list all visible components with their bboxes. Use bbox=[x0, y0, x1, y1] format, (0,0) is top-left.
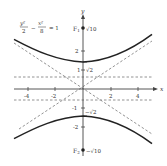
equation-minus: − bbox=[31, 25, 36, 31]
vertex-top-label: √2 bbox=[86, 67, 93, 73]
y-axis-label: y bbox=[80, 7, 85, 15]
focus-f2-label: F2 bbox=[73, 147, 80, 156]
x-tick-label: -2 bbox=[51, 93, 56, 99]
y-axis-arrow-icon bbox=[81, 14, 85, 19]
focus-f1-value: √10 bbox=[86, 26, 97, 32]
equation-num2: x² bbox=[38, 20, 43, 26]
hyperbola-diagram: x y -4 -2 2 4 2 1 -1 -2 √2 −√2 F1 √10 F2… bbox=[0, 0, 167, 166]
x-axis-label: x bbox=[160, 85, 164, 92]
y-tick-label: 1 bbox=[77, 67, 81, 73]
x-tick-label: 4 bbox=[136, 93, 140, 99]
focus-f2-value: −√10 bbox=[86, 148, 102, 154]
x-axis-arrow-icon bbox=[153, 87, 158, 91]
focus-f1-point bbox=[81, 26, 85, 30]
y-tick-label: -1 bbox=[72, 105, 77, 111]
y-tick-label: -2 bbox=[73, 124, 78, 130]
equation-label: y² 2 − x² 8 = 1 bbox=[19, 20, 59, 34]
equation-den2: 8 bbox=[40, 28, 44, 34]
equation-rhs: = 1 bbox=[49, 25, 59, 31]
vertex-bottom-label: −√2 bbox=[85, 109, 97, 115]
y-tick-label: 2 bbox=[75, 48, 79, 54]
equation-num1: y² bbox=[19, 20, 25, 27]
focus-f1-label: F1 bbox=[73, 25, 80, 34]
x-tick-label: 2 bbox=[109, 93, 113, 99]
x-tick-label: -4 bbox=[24, 93, 30, 99]
focus-f2-point bbox=[81, 148, 85, 152]
equation-den1: 2 bbox=[22, 28, 26, 34]
